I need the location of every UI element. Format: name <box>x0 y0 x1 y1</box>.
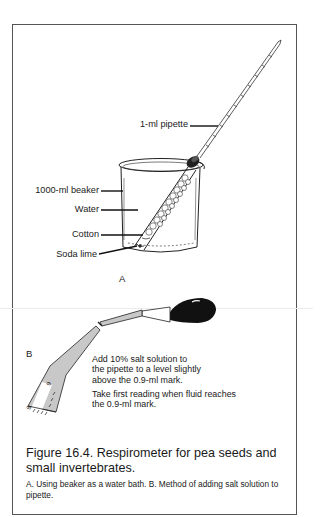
label-1000ml-beaker: 1000-ml beaker <box>20 186 99 195</box>
callout-leaders <box>99 126 218 254</box>
label-cotton: Cotton <box>40 230 99 239</box>
label-soda-lime: Soda lime <box>30 250 97 259</box>
panel-label-b: B <box>26 348 32 359</box>
pipette-tube-b: 8 9 <box>25 326 100 415</box>
figure-caption: A. Using beaker as a water bath. B. Meth… <box>26 479 288 500</box>
graduated-pipette <box>197 40 281 158</box>
label-water: Water <box>40 205 99 214</box>
label-1ml-pipette: 1-ml pipette <box>120 120 188 129</box>
dropper-drawing <box>98 298 216 326</box>
instruction-2: Take first reading when fluid reaches th… <box>92 389 242 410</box>
panel-label-a: A <box>119 273 125 284</box>
figure-title: Figure 16.4. Respirometer for pea seeds … <box>26 446 286 476</box>
panel-b-instructions: Add 10% salt solution to the pipette to … <box>92 354 262 413</box>
instruction-1: Add 10% salt solution to the pipette to … <box>92 354 202 385</box>
pipette-tube-a <box>134 167 196 250</box>
